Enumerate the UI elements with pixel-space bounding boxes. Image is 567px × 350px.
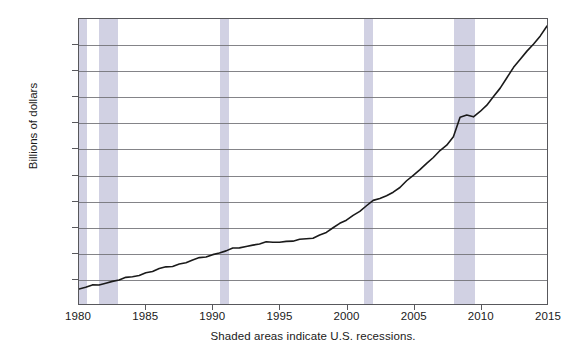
x-tick-label: 2015 xyxy=(518,310,567,322)
x-tick-label: 1985 xyxy=(115,310,175,322)
x-tick-mark xyxy=(145,305,146,310)
x-tick-label: 1995 xyxy=(249,310,309,322)
y-axis-title: Billions of dollars xyxy=(27,26,39,226)
x-tick-label: 1990 xyxy=(182,310,242,322)
x-tick-label: 1980 xyxy=(48,310,108,322)
chart-caption: Shaded areas indicate U.S. recessions. xyxy=(78,330,548,342)
plot-area xyxy=(78,18,548,305)
x-tick-mark xyxy=(481,305,482,310)
x-tick-mark xyxy=(414,305,415,310)
data-series-line xyxy=(79,19,547,304)
gdp-line-chart: Billions of dollars 1,0002,0003,0004,000… xyxy=(0,0,567,350)
x-tick-mark xyxy=(347,305,348,310)
x-tick-label: 2005 xyxy=(384,310,444,322)
x-tick-label: 2010 xyxy=(451,310,511,322)
x-tick-mark xyxy=(212,305,213,310)
x-tick-label: 2000 xyxy=(317,310,377,322)
x-tick-mark xyxy=(279,305,280,310)
